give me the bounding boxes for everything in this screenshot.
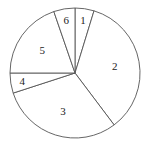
pie-chart: 123456 xyxy=(0,0,145,148)
slice-label-2: 2 xyxy=(112,60,118,72)
slice-label-4: 4 xyxy=(20,75,26,87)
slice-label-5: 5 xyxy=(39,44,45,56)
slice-label-3: 3 xyxy=(60,105,66,117)
slice-label-6: 6 xyxy=(63,14,69,26)
slice-label-1: 1 xyxy=(80,14,86,26)
